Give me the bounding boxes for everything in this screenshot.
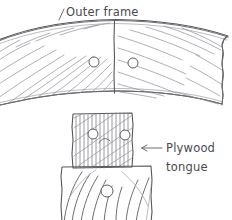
frame-dowel-hole-left <box>89 57 99 67</box>
outer-frame-leader-line <box>59 9 64 20</box>
outer-frame-joint-line <box>114 21 115 93</box>
outer-frame-bottom-arc <box>0 91 222 106</box>
tongue-dowel-hole-right <box>120 130 130 140</box>
outer-frame-label: Outer frame <box>66 5 139 19</box>
lower-block-dowel-hole <box>101 185 113 197</box>
sketch-canvas: Outer frame <box>0 0 232 220</box>
plywood-tongue-part <box>72 113 133 168</box>
plywood-tongue-label-group: Plywood tongue <box>142 141 216 174</box>
tongue-dowel-hole-left <box>88 129 98 139</box>
frame-dowel-hole-right <box>128 58 138 68</box>
outer-frame-part <box>0 20 228 107</box>
lower-block-part <box>61 166 152 220</box>
plywood-tongue-label-line1: Plywood <box>166 141 215 155</box>
outer-frame-label-group: Outer frame <box>59 5 139 20</box>
plywood-tongue-hatching <box>74 113 132 168</box>
plywood-tongue-label-line2: tongue <box>166 160 208 174</box>
